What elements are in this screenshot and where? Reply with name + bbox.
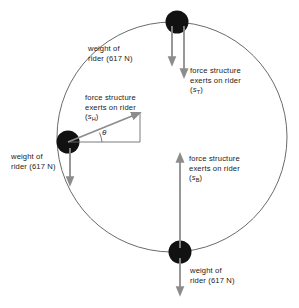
label-weight-left-line2: rider (617 N) — [11, 162, 56, 172]
label-force-left-line1: force structure — [85, 93, 136, 103]
label-weight-bottom-line1: weight of — [190, 266, 235, 276]
label-angle-theta: θ — [102, 128, 107, 138]
label-force-top-symbol: (sT) — [190, 85, 241, 96]
label-weight-bottom: weight of rider (617 N) — [190, 266, 235, 285]
label-weight-top: weight of rider (617 N) — [88, 44, 133, 63]
label-force-bottom-symbol: (sB) — [189, 173, 240, 184]
label-force-left-line2: exerts on rider — [85, 103, 136, 113]
label-force-left: force structure exerts on rider (sH) — [85, 93, 136, 123]
label-weight-left-line1: weight of — [11, 152, 56, 162]
label-force-bottom-line1: force structure — [189, 154, 240, 164]
label-force-left-symbol: (sH) — [85, 112, 136, 123]
label-weight-left: weight of rider (617 N) — [11, 152, 56, 171]
label-force-bottom: force structure exerts on rider (sB) — [189, 154, 240, 184]
label-force-bottom-line2: exerts on rider — [189, 164, 240, 174]
label-weight-top-line2: rider (617 N) — [88, 54, 133, 64]
force-diagram: weight of rider (617 N) force structure … — [0, 0, 299, 308]
label-force-top-line1: force structure — [190, 66, 241, 76]
label-force-top: force structure exerts on rider (sT) — [190, 66, 241, 96]
label-force-top-line2: exerts on rider — [190, 76, 241, 86]
rider-dot-top — [166, 11, 189, 34]
label-weight-bottom-line2: rider (617 N) — [190, 276, 235, 286]
label-weight-top-line1: weight of — [88, 44, 133, 54]
